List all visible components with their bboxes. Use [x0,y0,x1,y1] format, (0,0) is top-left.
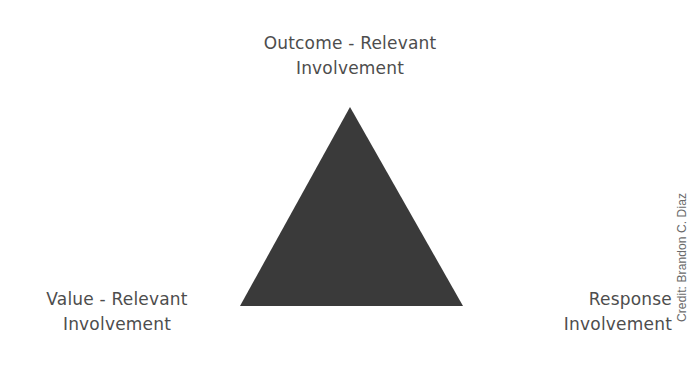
label-left-line2: Involvement [22,312,212,337]
label-outcome-relevant-involvement: Outcome - Relevant Involvement [250,31,450,81]
label-left-line1: Value - Relevant [22,287,212,312]
label-top-line1: Outcome - Relevant [250,31,450,56]
label-value-relevant-involvement: Value - Relevant Involvement [22,287,212,337]
image-credit: Credit: Brandon C. Diaz [675,193,689,322]
involvement-triangle-diagram: Outcome - Relevant Involvement Value - R… [0,0,697,369]
label-right-line1: Response [510,287,672,312]
label-top-line2: Involvement [250,56,450,81]
label-right-line2: Involvement [510,312,672,337]
involvement-triangle [240,107,463,306]
label-response-involvement: Response Involvement [510,287,672,337]
